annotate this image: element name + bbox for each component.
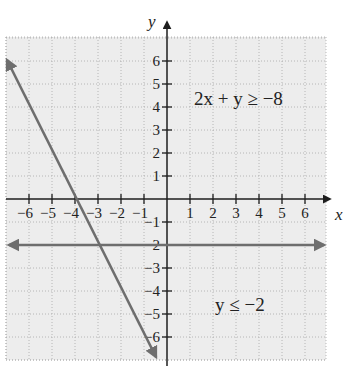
y-tick-label: 1 <box>153 168 161 184</box>
x-tick-label: −3 <box>86 205 102 221</box>
y-tick-label: −4 <box>144 283 160 299</box>
y-tick-label: 2 <box>153 145 161 161</box>
x-tick-label: 5 <box>278 205 286 221</box>
y-tick-label: 3 <box>153 122 161 138</box>
x-tick-label: −6 <box>17 205 33 221</box>
y-tick-label: 6 <box>153 53 161 69</box>
y-tick-label: −5 <box>144 306 160 322</box>
x-tick-label: 3 <box>232 205 240 221</box>
x-tick-label: −2 <box>109 205 125 221</box>
inequality-graph: −6−5−4−3−2−1123456 654321−1−2−3−4−5−6 x … <box>0 0 345 369</box>
annotation-horizontal-inequality: y ≤ −2 <box>215 294 265 315</box>
y-tick-label: 4 <box>153 99 161 115</box>
y-tick-label: −3 <box>144 260 160 276</box>
x-tick-label: 6 <box>301 205 309 221</box>
x-tick-label: 4 <box>255 205 263 221</box>
y-tick-label: −1 <box>144 214 160 230</box>
y-tick-label: 5 <box>153 76 161 92</box>
x-tick-label: −5 <box>40 205 56 221</box>
x-tick-label: 2 <box>209 205 217 221</box>
x-tick-label: 1 <box>186 205 194 221</box>
annotation-linear-inequality: 2x + y ≥ −8 <box>194 88 283 109</box>
y-axis-label: y <box>146 12 156 31</box>
x-axis-label: x <box>334 205 343 224</box>
x-tick-label: −4 <box>63 205 79 221</box>
